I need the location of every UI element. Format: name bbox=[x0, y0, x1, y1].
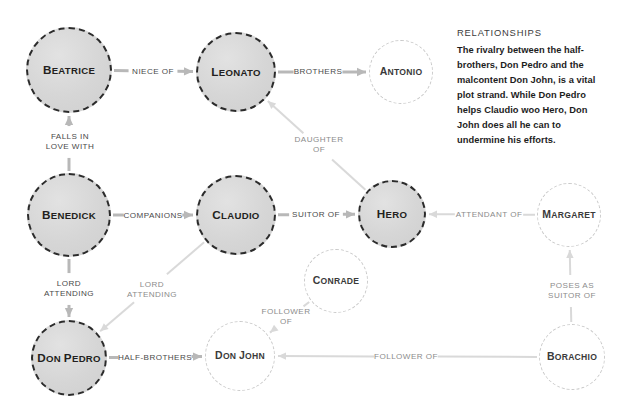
node-label-hero: HERO bbox=[377, 208, 407, 220]
arrowhead-benedick-claudio bbox=[184, 211, 193, 219]
node-label-beatrice: BEATRICE bbox=[43, 64, 95, 76]
node-beatrice[interactable]: BEATRICE bbox=[26, 27, 112, 113]
edge-label-benedick-claudio: COMPANIONS bbox=[123, 211, 182, 221]
edge-label-hero-leonato: DAUGHTER OF bbox=[295, 135, 344, 156]
arrowhead-benedick-beatrice bbox=[65, 116, 73, 125]
node-leonato[interactable]: LEONATO bbox=[196, 32, 276, 112]
arrowhead-donpedro-donjohn bbox=[193, 352, 202, 360]
node-margaret[interactable]: MARGARET bbox=[537, 183, 601, 247]
node-donpedro[interactable]: DON PEDRO bbox=[31, 320, 107, 396]
arrowhead-benedick-donpedro bbox=[65, 308, 73, 317]
node-label-leonato: LEONATO bbox=[211, 66, 260, 78]
arrowhead-beatrice-leonato bbox=[184, 67, 193, 75]
edge-label-donpedro-donjohn: HALF-BROTHERS bbox=[118, 353, 192, 363]
edge-label-claudio-hero: SUITOR OF bbox=[292, 210, 340, 220]
edge-label-margaret-hero: ATTENDANT OF bbox=[456, 210, 523, 220]
edge-label-conrade-donjohn: FOLLOWER OF bbox=[262, 307, 311, 328]
panel-title: RELATIONSHIPS bbox=[457, 27, 609, 38]
arrowhead-claudio-hero bbox=[346, 210, 355, 218]
node-label-donjohn: DON JOHN bbox=[215, 351, 265, 361]
edge-label-leonato-antonio: BROTHERS bbox=[294, 67, 343, 77]
node-benedick[interactable]: BENEDICK bbox=[27, 173, 111, 257]
arrowhead-borachio-donjohn bbox=[278, 352, 286, 359]
panel-body: The rivalry between the half-brothers, D… bbox=[457, 43, 609, 148]
edge-label-beatrice-leonato: NIECE OF bbox=[132, 67, 174, 77]
edge-label-claudio-donpedro: LORD ATTENDING bbox=[127, 280, 177, 301]
relationship-diagram: BEATRICELEONATOANTONIOBENEDICKCLAUDIOHER… bbox=[0, 0, 623, 413]
node-hero[interactable]: HERO bbox=[358, 180, 426, 248]
arrowhead-leonato-antonio bbox=[357, 68, 366, 76]
node-label-benedick: BENEDICK bbox=[42, 209, 96, 221]
arrowhead-borachio-margaret bbox=[566, 250, 573, 258]
node-label-claudio: CLAUDIO bbox=[212, 209, 259, 221]
edge-label-borachio-margaret: POSES AS SUITOR OF bbox=[548, 281, 596, 302]
edge-label-benedick-donpedro: LORD ATTENDING bbox=[44, 279, 94, 300]
arrowhead-margaret-hero bbox=[429, 211, 437, 218]
node-borachio[interactable]: BORACHIO bbox=[539, 324, 605, 390]
node-label-antonio: ANTONIO bbox=[380, 67, 423, 77]
edge-label-benedick-beatrice: FALLS IN LOVE WITH bbox=[46, 132, 95, 153]
edge-label-borachio-donjohn: FOLLOWER OF bbox=[374, 352, 438, 362]
node-label-conrade: CONRADE bbox=[313, 276, 360, 286]
node-conrade[interactable]: CONRADE bbox=[304, 249, 368, 313]
node-antonio[interactable]: ANTONIO bbox=[369, 40, 433, 104]
node-label-donpedro: DON PEDRO bbox=[37, 352, 101, 364]
node-donjohn[interactable]: DON JOHN bbox=[205, 321, 275, 391]
relationships-panel: RELATIONSHIPS The rivalry between the ha… bbox=[457, 27, 609, 148]
node-label-margaret: MARGARET bbox=[542, 210, 595, 220]
node-label-borachio: BORACHIO bbox=[547, 352, 597, 362]
node-claudio[interactable]: CLAUDIO bbox=[196, 175, 276, 255]
